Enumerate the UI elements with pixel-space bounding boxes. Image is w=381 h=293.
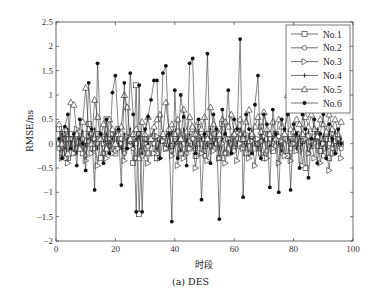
legend-label: No.3 xyxy=(323,57,342,67)
y-tick-label: 2.5 xyxy=(42,17,54,27)
y-tick-label: 0.5 xyxy=(42,114,54,124)
figure-caption: (a) DES xyxy=(0,276,381,287)
y-tick-label: −0.5 xyxy=(37,163,54,173)
y-tick-label: −2 xyxy=(43,236,53,246)
legend-label: No.2 xyxy=(323,43,342,53)
x-tick-label: 20 xyxy=(111,244,121,254)
y-tick-label: 0 xyxy=(49,139,54,149)
y-tick-label: 1.5 xyxy=(42,66,54,76)
x-tick-label: 40 xyxy=(170,244,180,254)
legend-label: No.6 xyxy=(323,99,342,109)
x-tick-label: 80 xyxy=(289,244,299,254)
y-tick-label: 2 xyxy=(49,41,54,51)
legend-label: No.4 xyxy=(323,71,342,81)
y-axis-label: RMSE/ns xyxy=(25,110,35,153)
legend: No.1No.2No.3No.4No.5No.6 xyxy=(286,25,350,113)
x-axis-label: 时段 xyxy=(195,259,213,270)
legend-label: No.1 xyxy=(323,30,342,40)
legend-label: No.5 xyxy=(323,85,342,95)
x-tick-label: 0 xyxy=(54,244,59,254)
line-chart: 020406080100−2−1.5−1−0.500.511.522.5 No.… xyxy=(0,0,381,293)
y-tick-label: 1 xyxy=(49,90,54,100)
y-tick-label: −1 xyxy=(43,187,53,197)
x-tick-label: 100 xyxy=(346,244,360,254)
y-tick-label: −1.5 xyxy=(37,212,54,222)
x-tick-label: 60 xyxy=(230,244,240,254)
